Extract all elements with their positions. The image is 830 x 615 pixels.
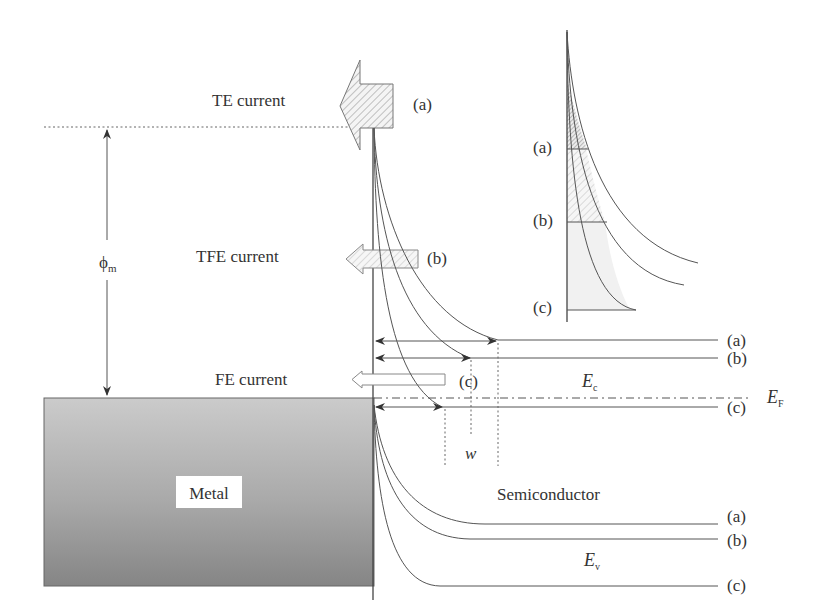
inset-case-a-label: (a) [533, 138, 552, 157]
ev-label: Ev [583, 550, 600, 572]
schottky-band-diagram: Metal ϕm TE current (a) TFE current (b) … [0, 0, 830, 615]
case-a-te-label: (a) [413, 95, 432, 114]
inset-case-c-label: (c) [533, 298, 552, 317]
ev-case-c-label: (c) [727, 576, 746, 595]
inset-region-c [567, 222, 630, 310]
ec-label: Ec [581, 371, 598, 393]
ev-case-a-label: (a) [727, 507, 746, 526]
tfe-current-arrow: TFE current (b) [196, 244, 447, 274]
te-current-label: TE current [212, 91, 285, 110]
case-b-tfe-label: (b) [427, 249, 447, 268]
ev-case-b-label: (b) [727, 531, 747, 550]
ec-curve-c [374, 128, 718, 407]
case-c-fe-label: (c) [459, 372, 478, 391]
ec-curve-b [374, 128, 718, 358]
metal-block: Metal [44, 398, 374, 586]
phi-m-arrow: ϕm [99, 130, 117, 395]
phi-m-symbol: ϕm [99, 253, 117, 274]
conduction-band-curves [374, 128, 718, 407]
depletion-width-w-label: w [465, 444, 477, 463]
inset-case-b-label: (b) [533, 211, 553, 230]
te-current-arrow: TE current (a) [212, 60, 432, 150]
metal-label: Metal [189, 484, 229, 503]
tfe-current-label: TFE current [196, 247, 279, 266]
semiconductor-label: Semiconductor [497, 485, 600, 504]
ec-case-a-label: (a) [727, 331, 746, 350]
ec-case-b-label: (b) [727, 349, 747, 368]
ev-curve-a [374, 405, 718, 524]
ev-curve-b [374, 405, 718, 539]
ef-label: EF [766, 387, 784, 409]
fe-current-arrow: FE current (c) [215, 370, 478, 391]
barrier-inset: (a) (b) (c) [533, 30, 698, 322]
fe-current-label: FE current [215, 370, 288, 389]
ec-case-c-label: (c) [727, 398, 746, 417]
